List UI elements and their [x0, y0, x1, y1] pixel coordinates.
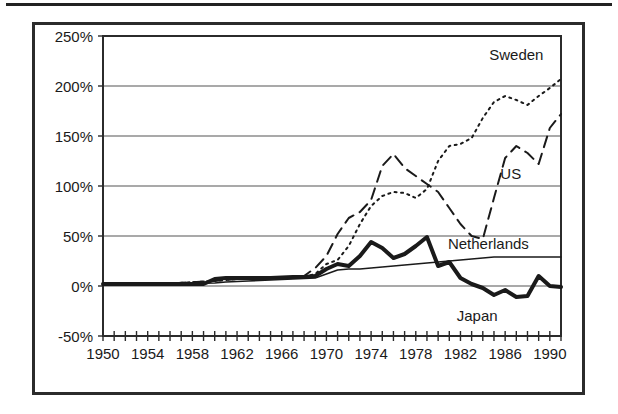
y-tick-label: 200%: [30, 78, 93, 95]
x-tick-label: 1962: [220, 345, 253, 362]
x-tick-label: 1954: [131, 345, 164, 362]
y-tick-label: 100%: [30, 178, 93, 195]
series-line-us: [103, 114, 561, 284]
series-label-sweden: Sweden: [489, 46, 543, 63]
y-tick-label: -50%: [30, 328, 93, 345]
data-series: [103, 79, 561, 297]
x-tick-label: 1978: [399, 345, 432, 362]
x-tick-label: 1958: [176, 345, 209, 362]
x-tick-label: 1990: [533, 345, 566, 362]
y-tick-label: 250%: [30, 28, 93, 45]
x-tick-label: 1986: [488, 345, 521, 362]
gridlines: [103, 86, 561, 286]
x-tick-label: 1982: [444, 345, 477, 362]
series-label-us: US: [500, 165, 521, 182]
series-label-netherlands: Netherlands: [448, 235, 529, 252]
series-line-sweden: [103, 79, 561, 284]
x-tick-label: 1974: [354, 345, 387, 362]
figure-page: 250%200%150%100%50%0%-50% 19501954195819…: [0, 0, 618, 414]
y-tick-label: 50%: [30, 228, 93, 245]
series-label-japan: Japan: [457, 307, 498, 324]
x-tick-label: 1970: [310, 345, 343, 362]
y-tick-label: 150%: [30, 128, 93, 145]
x-tick-label: 1950: [86, 345, 119, 362]
y-tick-label: 0%: [30, 278, 93, 295]
x-tick-label: 1966: [265, 345, 298, 362]
